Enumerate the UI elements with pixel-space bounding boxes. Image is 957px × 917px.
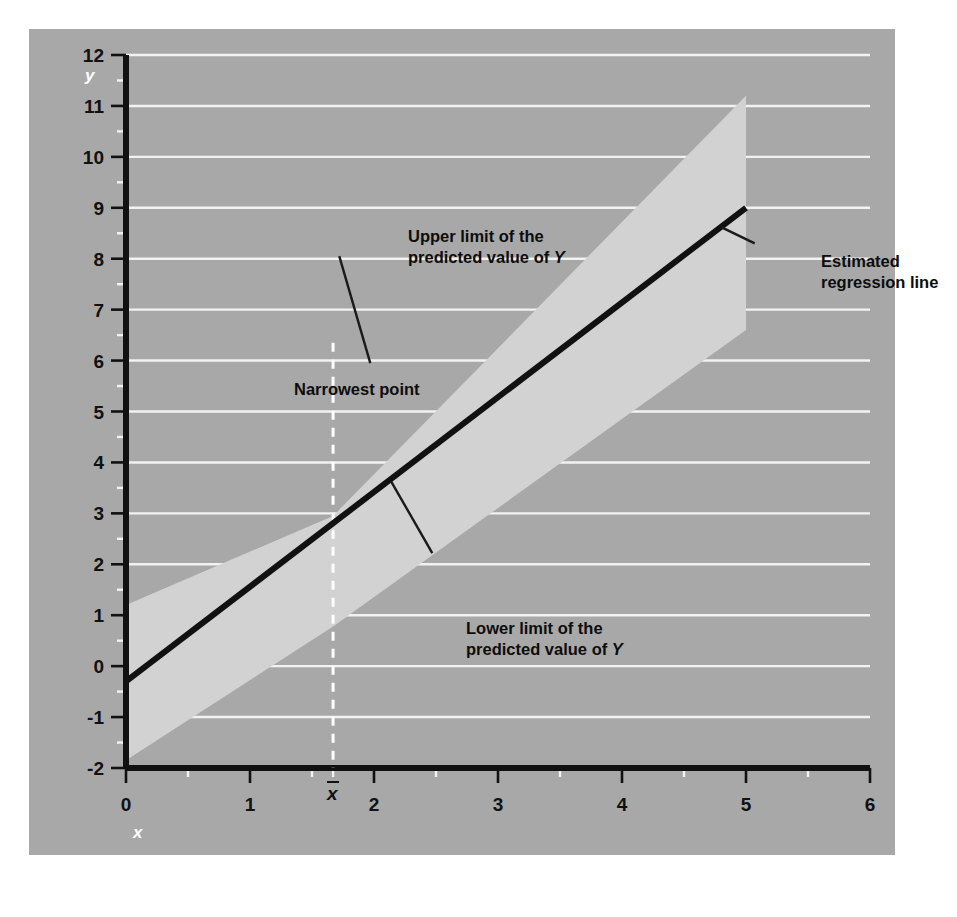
y-tick-label: 12 (83, 46, 104, 65)
x-tick-label: 0 (121, 795, 132, 814)
y-tick-label: 10 (83, 147, 104, 166)
prediction-band-shape (126, 96, 746, 761)
y-tick-label: 9 (93, 198, 104, 217)
y-tick-label: 6 (93, 351, 104, 370)
x-tick-label: 4 (617, 795, 628, 814)
annotation-narrowest-point: Narrowest point (294, 379, 420, 400)
plot-surface (29, 29, 895, 855)
y-tick-label: 3 (93, 504, 104, 523)
annotation-lower-limit: Lower limit of thepredicted value of Y (466, 618, 623, 660)
figure-root: y x -2-10123456789101112 0123456 x Upper… (0, 0, 957, 917)
y-tick-label: 1 (93, 606, 104, 625)
chart-panel: y x -2-10123456789101112 0123456 x Upper… (29, 29, 895, 855)
x-tick-label: 2 (369, 795, 380, 814)
y-tick-label: 7 (93, 300, 104, 319)
y-tick-label: 2 (93, 555, 104, 574)
prediction-band (126, 96, 746, 761)
annotation-upper-limit: Upper limit of thepredicted value of Y (408, 226, 565, 268)
x-tick-label: 1 (245, 795, 256, 814)
x-bar-tick-label: x (327, 781, 339, 803)
regression-line (126, 208, 746, 682)
x-tick-label: 6 (865, 795, 876, 814)
annotation-regression-line: Estimatedregression line (821, 251, 938, 293)
y-tick-label: 5 (93, 402, 104, 421)
y-tick-label: -2 (87, 759, 104, 778)
y-tick-label: -1 (87, 708, 104, 727)
regression-line-path (126, 208, 746, 682)
x-tick-label: 5 (741, 795, 752, 814)
y-tick-label: 8 (93, 249, 104, 268)
y-tick-label: 11 (84, 96, 104, 115)
y-axis-label: y (85, 67, 95, 84)
x-axis-label: x (133, 824, 143, 841)
y-tick-label: 0 (93, 657, 104, 676)
x-bar-letter: x (327, 783, 338, 804)
y-tick-label: 4 (93, 453, 104, 472)
x-tick-label: 3 (493, 795, 504, 814)
